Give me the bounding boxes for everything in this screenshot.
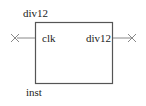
module-name-label: div12 (23, 8, 48, 19)
input-port-label: clk (42, 33, 55, 44)
output-port-label: div12 (86, 33, 111, 44)
block-symbol-graphic (0, 0, 146, 106)
instance-name-label: inst (26, 87, 42, 98)
